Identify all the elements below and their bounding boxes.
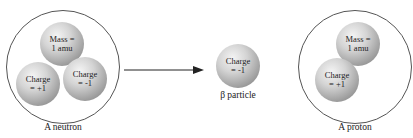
proton-positive-label: Charge = +1 [325,71,349,89]
beta-particle-ball: Charge = -1 [216,44,260,88]
proton-positive-ball: Charge = +1 [315,58,359,102]
proton-caption: A proton [320,122,390,132]
beta-particle-label: Charge = -1 [226,57,250,75]
proton-mass-label: Mass = 1 amu [346,35,371,53]
beta-caption: β particle [203,90,273,100]
